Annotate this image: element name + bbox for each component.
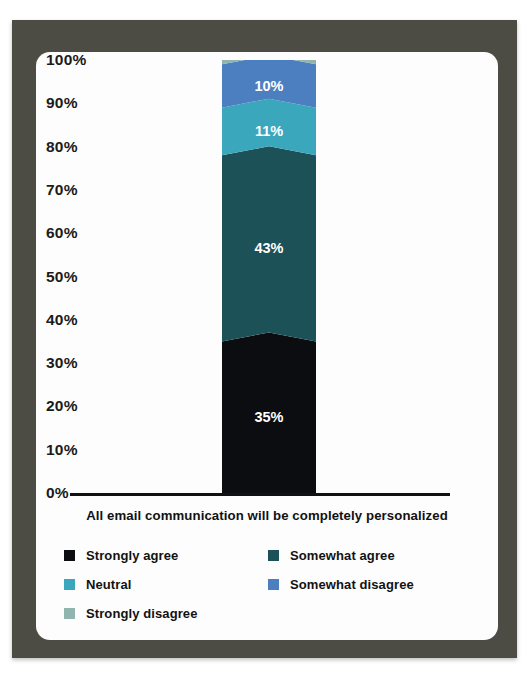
chart-legend: Strongly agreeSomewhat agreeNeutralSomew… xyxy=(64,548,484,635)
y-axis-tick-30: 30% xyxy=(46,354,118,372)
x-axis-line xyxy=(70,493,450,496)
legend-label-somewhat-disagree: Somewhat disagree xyxy=(290,577,414,592)
plot-area: 0%10%20%30%40%50%60%70%80%90%100% 35%43%… xyxy=(36,52,498,640)
chart-card: 0%10%20%30%40%50%60%70%80%90%100% 35%43%… xyxy=(36,52,498,640)
y-axis-tick-40: 40% xyxy=(46,311,118,329)
stacked-bar[interactable]: 35%43%11%10% xyxy=(222,60,316,493)
legend-item-strongly-agree[interactable]: Strongly agree xyxy=(64,548,244,563)
bar-value-label-somewhat-agree: 43% xyxy=(254,240,283,256)
y-axis-tick-70: 70% xyxy=(46,181,118,199)
legend-item-somewhat-agree[interactable]: Somewhat agree xyxy=(268,548,448,563)
y-axis-tick-90: 90% xyxy=(46,94,118,112)
legend-swatch-strongly-disagree xyxy=(64,608,75,619)
y-axis-tick-80: 80% xyxy=(46,138,118,156)
bar-value-label-neutral: 11% xyxy=(255,123,283,139)
bar-value-label-strongly-agree: 35% xyxy=(254,409,283,425)
legend-label-strongly-agree: Strongly agree xyxy=(86,548,178,563)
legend-row: Strongly disagree xyxy=(64,606,484,621)
legend-label-strongly-disagree: Strongly disagree xyxy=(86,606,198,621)
legend-item-neutral[interactable]: Neutral xyxy=(64,577,244,592)
y-axis-tick-100: 100% xyxy=(46,51,118,69)
y-axis-tick-60: 60% xyxy=(46,224,118,242)
legend-label-neutral: Neutral xyxy=(86,577,132,592)
legend-swatch-neutral xyxy=(64,579,75,590)
y-axis-tick-10: 10% xyxy=(46,441,118,459)
y-axis-tick-20: 20% xyxy=(46,397,118,415)
bar-value-label-somewhat-disagree: 10% xyxy=(254,78,283,94)
chart-title: All email communication will be complete… xyxy=(36,508,498,523)
legend-row: Strongly agreeSomewhat agree xyxy=(64,548,484,563)
legend-item-strongly-disagree[interactable]: Strongly disagree xyxy=(64,606,244,621)
legend-item-somewhat-disagree[interactable]: Somewhat disagree xyxy=(268,577,448,592)
legend-swatch-somewhat-agree xyxy=(268,550,279,561)
legend-label-somewhat-agree: Somewhat agree xyxy=(290,548,395,563)
y-axis-tick-50: 50% xyxy=(46,268,118,286)
legend-row: NeutralSomewhat disagree xyxy=(64,577,484,592)
legend-swatch-somewhat-disagree xyxy=(268,579,279,590)
legend-swatch-strongly-agree xyxy=(64,550,75,561)
